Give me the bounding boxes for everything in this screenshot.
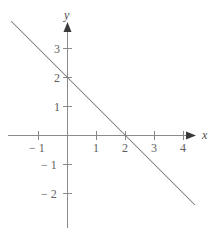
x-axis-arrow-icon xyxy=(186,132,196,140)
y-axis-arrow-icon xyxy=(64,22,72,32)
line-graph-figure: y x − 1 1 2 3 4 3 2 1 − 1 − 2 xyxy=(0,0,218,235)
x-tick-label-1: 1 xyxy=(93,142,99,154)
x-tick-label-4: 4 xyxy=(180,142,186,154)
y-tick-label--2: − 2 xyxy=(41,188,57,200)
y-tick-label-2: 2 xyxy=(54,72,60,84)
x-tick-label-2: 2 xyxy=(122,142,128,154)
x-tick-label--1: − 1 xyxy=(29,142,45,154)
y-tick-label-1: 1 xyxy=(54,101,60,113)
y-axis-label: y xyxy=(64,9,69,21)
x-axis-label: x xyxy=(202,129,207,141)
y-tick-label-3: 3 xyxy=(54,43,60,55)
plot-canvas xyxy=(0,0,218,235)
y-tick-label--1: − 1 xyxy=(41,159,57,171)
x-tick-label-3: 3 xyxy=(151,142,157,154)
plotted-line-series xyxy=(11,21,195,205)
